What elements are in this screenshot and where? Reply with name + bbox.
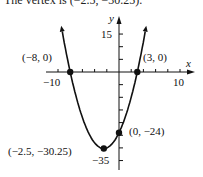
x-tick-label-neg10: −10 (43, 76, 61, 88)
curve-arrow-right-icon (143, 26, 148, 32)
y-tick-label-neg35: −35 (92, 154, 110, 166)
x-tick-label-10: 10 (173, 76, 185, 88)
annotation-0-neg24: (0, −24) (129, 125, 165, 138)
x-axis-label: x (185, 57, 191, 69)
annotation-3-0: (3, 0) (143, 51, 167, 64)
y-tick-label-15: 15 (101, 28, 113, 40)
y-axis-arrow-icon (117, 16, 122, 24)
y-ticks (119, 34, 123, 161)
point-vertex (101, 145, 107, 151)
point-x-intercept-left (67, 69, 73, 75)
x-axis-arrow-icon (187, 70, 195, 75)
annotation-neg8-0: (−8, 0) (22, 51, 52, 64)
curve-arrow-left-icon (60, 26, 65, 32)
y-axis-label: y (108, 12, 114, 24)
annotation-vertex: (−2.5, −30.25) (8, 145, 72, 158)
point-x-intercept-right (134, 69, 140, 75)
point-y-intercept (116, 130, 122, 136)
parabola-graph: x y −10 10 15 −35 (−8, 0) (3, 0) (0, −24… (0, 0, 203, 177)
